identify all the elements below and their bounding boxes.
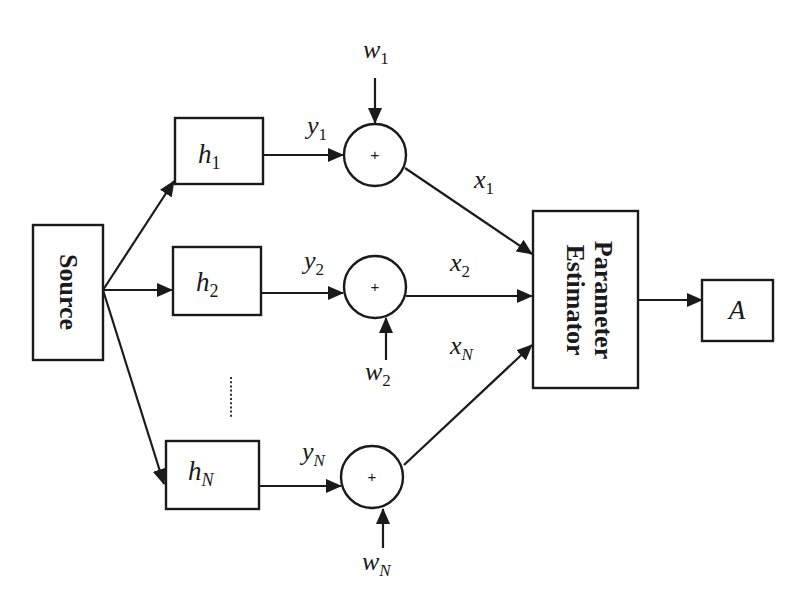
source-branches xyxy=(103,181,174,484)
channel-1: h1 y1 + w1 x1 xyxy=(175,35,532,254)
signal-x2-label: x2 xyxy=(449,248,470,281)
estimator-label-line1: Parameter xyxy=(589,241,618,359)
channel-2: h2 y2 + w2 x2 xyxy=(173,246,532,390)
channel-n: hN yN + wN xN xyxy=(166,331,532,580)
noise-wN-label: wN xyxy=(362,547,392,580)
signal-y1-label: y1 xyxy=(304,111,327,144)
output-label: A xyxy=(727,295,746,325)
branch-to-h1 xyxy=(103,181,174,290)
source-block: Source xyxy=(33,225,103,360)
wire-x1 xyxy=(405,168,532,254)
estimator-label-line2: Estimator xyxy=(561,244,590,355)
source-label: Source xyxy=(54,254,83,330)
signal-yN-label: yN xyxy=(299,437,327,470)
signal-xN-label: xN xyxy=(449,331,475,364)
noise-w1-label: w1 xyxy=(363,35,389,68)
signal-y2-label: y2 xyxy=(301,246,324,279)
diagram-canvas: Source h1 y1 + w1 x1 h2 y xyxy=(0,0,805,608)
noise-w2-label: w2 xyxy=(365,357,391,390)
filter-h1 xyxy=(175,118,263,184)
summer-2-plus: + xyxy=(371,278,380,295)
branch-to-hN xyxy=(103,290,164,484)
signal-x1-label: x1 xyxy=(473,165,494,198)
output-block: A xyxy=(702,280,773,341)
parameter-estimator-block: Parameter Estimator xyxy=(533,211,638,388)
summer-1-plus: + xyxy=(371,146,380,163)
summer-n-plus: + xyxy=(368,468,377,485)
